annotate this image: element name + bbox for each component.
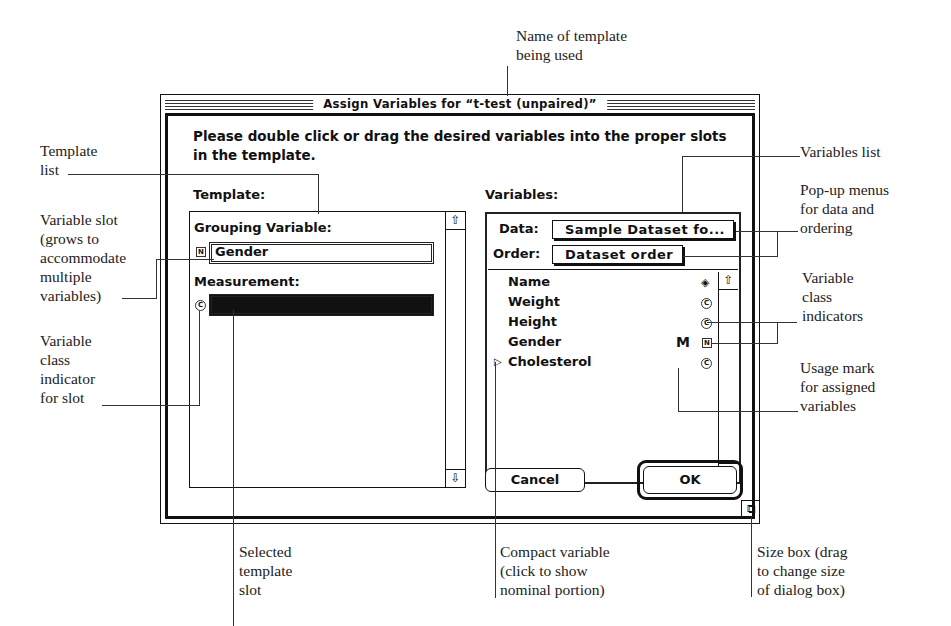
dialog-title: Assign Variables for “t-test (unpaired)” [313,95,607,113]
title-bar[interactable]: Assign Variables for “t-test (unpaired)” [161,95,759,113]
leader-line [682,156,800,157]
leader-line [682,156,683,213]
annotation-variables-list: Variables list [800,142,881,161]
annotation-class-indicators: Variable class indicators [802,268,863,325]
variables-list[interactable]: ⇧ ⇩ Name Weight Height Gender Cholestero… [488,272,738,481]
template-label: Template: [193,187,265,202]
string-class-icon: ◈ [701,278,709,287]
order-label: Order: [493,246,540,261]
grouping-slot-value: Gender [215,244,268,259]
annotation-selected-slot: Selected template slot [239,542,292,599]
variable-item[interactable]: Height [508,312,557,332]
leader-line [777,231,778,257]
leader-line [777,322,778,344]
data-label: Data: [499,221,539,236]
leader-line [318,174,319,214]
variables-scrollbar[interactable]: ⇧ ⇩ [718,272,738,481]
annotation-size-box: Size box (drag to change size of dialog … [757,542,847,599]
leader-line [199,311,200,406]
scroll-down-icon[interactable]: ⇩ [446,469,465,487]
order-popup-menu[interactable]: Dataset order [552,245,683,264]
leader-line [751,517,752,597]
leader-line [712,343,778,344]
continuous-class-icon: C [195,300,206,311]
continuous-class-icon: C [701,298,712,309]
scroll-up-icon[interactable]: ⇧ [446,212,465,230]
continuous-class-icon: C [701,318,712,329]
leader-line [736,231,798,232]
template-scrollbar[interactable]: ⇧ ⇩ [445,212,465,487]
annotation-template-name: Name of template being used [516,26,627,64]
leader-line [678,368,679,412]
leader-line [495,362,496,598]
leader-line [707,322,797,323]
leader-line [68,174,318,175]
annotation-class-indicator-slot: Variable class indicator for slot [40,331,95,407]
leader-line [156,259,157,299]
leader-line [122,298,157,299]
variable-item[interactable]: Weight [508,292,560,312]
cancel-button[interactable]: Cancel [485,468,585,492]
leader-line [678,411,798,412]
variables-label: Variables: [485,187,558,202]
measurement-label: Measurement: [194,274,300,289]
continuous-class-icon: C [701,358,712,369]
instructions-text: Please double click or drag the desired … [193,127,733,165]
measurement-slot-selected[interactable] [209,294,434,316]
scroll-up-icon[interactable]: ⇧ [719,272,738,290]
leader-line [233,310,234,626]
leader-line [102,405,200,406]
nominal-class-icon: N [196,247,206,257]
grouping-variable-slot[interactable]: Gender [209,242,434,264]
leader-line [507,66,508,96]
grouping-variable-label: Grouping Variable: [194,220,332,235]
variables-header-divider [488,269,738,270]
leader-line [156,259,214,260]
size-box-icon[interactable]: ⧉ [741,500,760,518]
leader-line [683,256,778,257]
annotation-variable-slot: Variable slot (grows to accommodate mult… [40,210,126,305]
data-popup-menu[interactable]: Sample Dataset fo... [552,220,734,239]
variable-item[interactable]: Name [508,272,550,292]
usage-mark: M [676,332,690,352]
annotation-usage-mark: Usage mark for assigned variables [800,358,875,415]
variable-item[interactable]: Cholesterol [508,352,592,372]
variable-item[interactable]: Gender [508,332,561,352]
ok-button-default-ring: OK [637,460,743,500]
annotation-compact-variable: Compact variable (click to show nominal … [500,542,610,599]
nominal-class-icon: N [702,338,712,348]
ok-button[interactable]: OK [643,466,737,494]
annotation-popup-menus: Pop-up menus for data and ordering [800,180,889,237]
